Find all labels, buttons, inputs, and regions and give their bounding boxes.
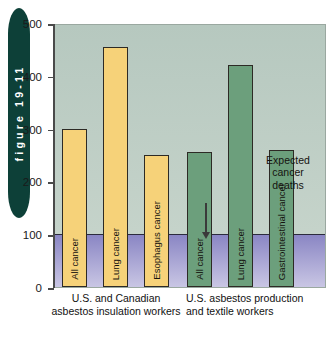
y-axis-tick: 400 xyxy=(48,77,54,79)
plot-area: All cancerLung cancerEsophagus cancerAll… xyxy=(54,24,326,288)
y-axis-tick: 500 xyxy=(48,24,54,26)
y-axis-tick: 0 xyxy=(48,288,54,290)
bar: Lung cancer xyxy=(228,65,253,287)
bar: Esophagus cancer xyxy=(144,155,169,287)
bar-label: Gastrointestinal cancer xyxy=(277,183,287,280)
y-axis: 0100200300400500 xyxy=(53,24,55,288)
y-axis-tick: 300 xyxy=(48,130,54,132)
bar-label: All cancer xyxy=(70,238,80,280)
y-axis-tick: 200 xyxy=(48,182,54,184)
expected-deaths-annotation: Expected cancer deaths xyxy=(257,154,319,191)
y-axis-tick-label: 200 xyxy=(23,176,42,188)
expected-deaths-annotation-text: Expected cancer deaths xyxy=(266,154,310,191)
bar-label: Lung cancer xyxy=(111,228,121,280)
group-caption-0: U.S. and Canadian asbestos insulation wo… xyxy=(50,292,182,318)
y-axis-tick-label: 400 xyxy=(23,71,42,83)
y-axis-tick-label: 500 xyxy=(23,18,42,30)
group-caption-1: U.S. asbestos production and textile wor… xyxy=(186,292,304,318)
bar-label: Esophagus cancer xyxy=(152,201,162,280)
y-axis-tick-label: 100 xyxy=(23,229,42,241)
y-axis-tick: 100 xyxy=(48,235,54,237)
y-axis-tick-label: 300 xyxy=(23,123,42,135)
bar: Lung cancer xyxy=(103,47,128,287)
bar: All cancer xyxy=(187,152,212,287)
bar-label: All cancer xyxy=(195,238,205,280)
annotation-arrow-icon xyxy=(205,203,207,233)
bar-label: Lung cancer xyxy=(236,228,246,280)
y-axis-tick-label: 0 xyxy=(36,282,42,294)
bar-chart: All cancerLung cancerEsophagus cancerAll… xyxy=(54,24,326,288)
bar: All cancer xyxy=(62,129,87,287)
